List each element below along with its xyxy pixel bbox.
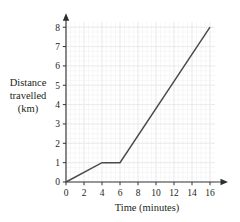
svg-text:4: 4	[100, 188, 105, 198]
svg-text:2: 2	[82, 188, 87, 198]
svg-text:4: 4	[55, 100, 60, 110]
svg-text:14: 14	[187, 188, 197, 198]
tick-labels: 0246810121416012345678	[55, 23, 215, 198]
distance-time-chart: Distance travelled (km) Time (minutes) 0…	[0, 0, 240, 222]
svg-text:7: 7	[55, 42, 60, 52]
svg-text:2: 2	[55, 139, 60, 149]
svg-text:0: 0	[55, 177, 60, 187]
svg-text:5: 5	[55, 81, 60, 91]
axis-lines	[63, 13, 228, 185]
grid-minor-lines	[66, 22, 215, 182]
svg-text:6: 6	[118, 188, 123, 198]
svg-text:12: 12	[169, 188, 179, 198]
svg-text:3: 3	[55, 119, 60, 129]
tick-marks	[63, 27, 210, 185]
svg-text:8: 8	[55, 23, 60, 33]
svg-text:0: 0	[64, 188, 69, 198]
svg-text:16: 16	[205, 188, 215, 198]
svg-text:6: 6	[55, 61, 60, 71]
svg-text:8: 8	[136, 188, 141, 198]
svg-text:10: 10	[151, 188, 161, 198]
svg-text:1: 1	[55, 158, 60, 168]
plot-area: 0246810121416012345678	[0, 0, 240, 222]
